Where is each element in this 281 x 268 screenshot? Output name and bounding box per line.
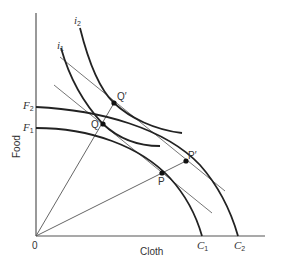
label-i2: i2 bbox=[74, 15, 81, 27]
point-p bbox=[159, 170, 164, 175]
label-c2: C2 bbox=[234, 240, 245, 252]
price-line-1 bbox=[54, 85, 212, 213]
ppf-f2-c2 bbox=[36, 107, 238, 236]
origin-label: 0 bbox=[32, 241, 38, 251]
label-c1: C1 bbox=[197, 240, 208, 252]
label-p: P bbox=[158, 177, 165, 187]
ppf-f1-c1 bbox=[36, 128, 202, 236]
point-q-prime bbox=[111, 100, 116, 105]
point-q bbox=[100, 121, 105, 126]
label-p-prime: P′ bbox=[188, 151, 197, 161]
label-q-prime: Q′ bbox=[117, 92, 127, 102]
x-axis-label: Cloth bbox=[140, 247, 163, 257]
y-axis-label: Food bbox=[12, 135, 22, 158]
label-f1: F1 bbox=[23, 122, 34, 134]
price-line-2 bbox=[60, 57, 225, 191]
label-i1: i1 bbox=[57, 40, 64, 52]
label-q: Q bbox=[91, 120, 99, 130]
diagram-canvas bbox=[0, 0, 281, 268]
label-f2: F2 bbox=[23, 100, 34, 112]
indifference-curve-i2 bbox=[80, 28, 182, 133]
